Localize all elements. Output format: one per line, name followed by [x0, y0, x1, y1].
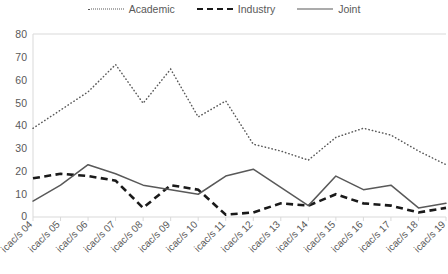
- y-axis-tick-label: 80: [15, 28, 27, 40]
- line-chart: Academic Industry Joint 0102030405060708…: [0, 0, 448, 274]
- data-series-layer: [33, 65, 446, 215]
- plot-area: 01020304050607080 icac/s 04icac/s 05icac…: [0, 0, 448, 274]
- y-axis-tick-label: 60: [15, 74, 27, 86]
- series-line-academic: [33, 65, 446, 165]
- y-axis-tick-label: 10: [15, 188, 27, 200]
- y-axis-tick-label: 70: [15, 51, 27, 63]
- series-line-industry: [33, 174, 446, 215]
- axis-lines: [33, 34, 446, 217]
- plot-svg: 01020304050607080 icac/s 04icac/s 05icac…: [0, 0, 448, 274]
- y-axis-tick-label: 50: [15, 97, 27, 109]
- y-axis-tick-label: 20: [15, 165, 27, 177]
- series-line-joint: [33, 165, 446, 208]
- x-axis-tick-labels: icac/s 04icac/s 05icac/s 06icac/s 07icac…: [0, 218, 448, 254]
- y-axis-tick-labels: 01020304050607080: [15, 28, 27, 222]
- y-axis-tick-label: 30: [15, 142, 27, 154]
- y-axis-tick-label: 40: [15, 119, 27, 131]
